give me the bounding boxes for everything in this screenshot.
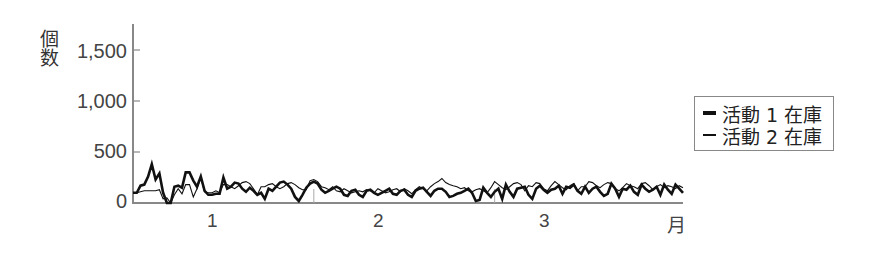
y-tick-label-1000: 1,000 [27, 90, 127, 113]
x-tick-label-month-3: 3 [539, 210, 550, 232]
chart-legend: 活動 1 在庫 活動 2 在庫 [694, 96, 834, 151]
x-axis-unit-label: 月 [667, 210, 686, 237]
x-tick-label-month-1: 1 [207, 210, 218, 232]
thin-line-swatch-icon [703, 134, 716, 136]
thick-line-swatch-icon [703, 111, 716, 115]
chart-series [133, 164, 683, 203]
y-tick-label-0: 0 [27, 190, 127, 213]
legend-label: 活動 2 在庫 [722, 122, 822, 149]
y-tick-label-500: 500 [27, 140, 127, 163]
chart-axes [133, 24, 683, 204]
legend-item-activity-2: 活動 2 在庫 [703, 124, 827, 146]
x-tick-label-month-2: 2 [373, 210, 384, 232]
y-tick-label-1500: 1,500 [27, 40, 127, 63]
series-activity-1-line [133, 164, 683, 203]
